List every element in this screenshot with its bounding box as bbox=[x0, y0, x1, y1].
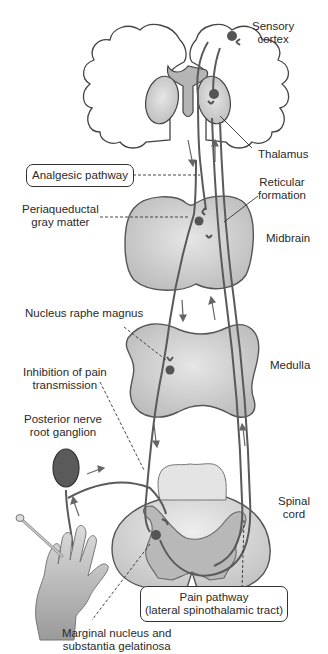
midbrain-shape bbox=[125, 196, 253, 290]
periaqueductal-label-line1: Periaqueductal bbox=[22, 203, 99, 216]
midbrain-label: Midbrain bbox=[266, 232, 310, 245]
sensory-cortex-label-line1: Sensory bbox=[252, 20, 294, 33]
inhibition-label-line1: Inhibition of pain bbox=[23, 366, 107, 379]
spinal-cord-label-line2: cord bbox=[278, 508, 310, 521]
nucleus-raphe-magnus-label: Nucleus raphe magnus bbox=[25, 307, 143, 320]
reticular-formation-label-line1: Reticular bbox=[258, 176, 306, 189]
reticular-formation-label: Reticular formation bbox=[258, 176, 306, 202]
analgesic-pathway-label: Analgesic pathway bbox=[32, 169, 128, 181]
hand-with-pin-illustration bbox=[16, 515, 108, 641]
marginal-label-line1: Marginal nucleus and bbox=[62, 627, 171, 640]
reticular-formation-label-line2: formation bbox=[258, 189, 306, 202]
marginal-nucleus-label: Marginal nucleus and substantia gelatino… bbox=[62, 627, 171, 653]
periaqueductal-gray-label: Periaqueductal gray matter bbox=[22, 203, 99, 229]
medulla-label: Medulla bbox=[270, 359, 310, 372]
posterior-root-ganglion-shape bbox=[53, 449, 79, 487]
pain-pathway-box: Pain pathway (lateral spinothalamic trac… bbox=[140, 586, 288, 622]
pain-pathway-diagram bbox=[0, 0, 328, 654]
ganglion-label-line2: root ganglion bbox=[24, 426, 102, 439]
spinal-cord-label: Spinal cord bbox=[278, 495, 310, 521]
periaqueductal-label-line2: gray matter bbox=[22, 216, 99, 229]
inhibition-label-line2: transmission bbox=[23, 379, 107, 392]
inhibition-of-pain-label: Inhibition of pain transmission bbox=[23, 366, 107, 392]
sensory-cortex-label-line2: cortex bbox=[252, 33, 294, 46]
ganglion-label-line1: Posterior nerve bbox=[24, 413, 102, 426]
posterior-nerve-root-ganglion-label: Posterior nerve root ganglion bbox=[24, 413, 102, 439]
marginal-label-line2: substantia gelatinosa bbox=[62, 640, 171, 653]
pain-pathway-label-line2: (lateral spinothalamic tract) bbox=[141, 604, 287, 617]
sensory-cortex-label: Sensory cortex bbox=[252, 20, 294, 46]
analgesic-pathway-box: Analgesic pathway bbox=[26, 164, 134, 187]
pain-pathway-label-line1: Pain pathway bbox=[141, 591, 287, 604]
thalamus-label: Thalamus bbox=[258, 148, 309, 161]
spinal-cord-label-line1: Spinal bbox=[278, 495, 310, 508]
